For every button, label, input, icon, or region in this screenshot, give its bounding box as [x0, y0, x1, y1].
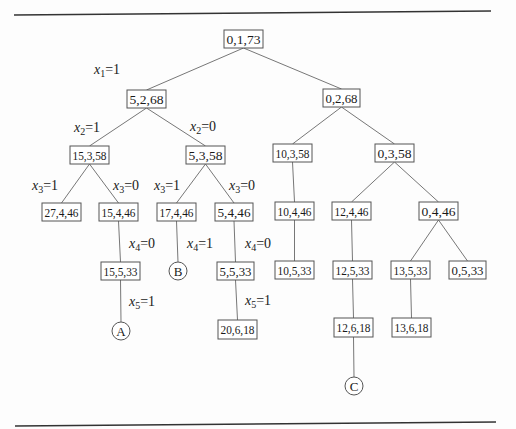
tree-node: 0,2,68	[323, 89, 360, 107]
edge-n19-n24	[411, 279, 412, 318]
svg-text:27,4,46: 27,4,46	[45, 205, 79, 220]
tree-node: 15,5,33	[101, 262, 140, 280]
svg-text:10,5,33: 10,5,33	[278, 263, 312, 278]
svg-text:10,4,46: 10,4,46	[278, 204, 312, 219]
svg-text:20,6,18: 20,6,18	[221, 322, 255, 337]
svg-text:5,2,68: 5,2,68	[130, 92, 164, 107]
tree-node: 15,3,58	[70, 146, 109, 164]
svg-text:15,3,58: 15,3,58	[73, 148, 107, 163]
svg-text:0,1,73: 0,1,73	[227, 32, 261, 47]
tree-node: 27,4,46	[42, 203, 81, 221]
edge-n10-n16	[234, 221, 236, 262]
tree-node: 5,2,68	[127, 90, 166, 108]
edge-label: x3=0	[228, 178, 255, 195]
tree-node: 12,6,18	[334, 318, 373, 337]
edge-n14-n21	[121, 280, 122, 322]
svg-text:B: B	[174, 264, 183, 279]
tree-node: 12,5,33	[333, 261, 372, 279]
tree-node: 17,4,46	[157, 203, 196, 221]
svg-text:13,5,33: 13,5,33	[394, 263, 428, 278]
svg-text:12,5,33: 12,5,33	[336, 263, 370, 278]
svg-text:13,6,18: 13,6,18	[395, 320, 429, 335]
tree-node: 0,4,46	[419, 202, 458, 220]
edge-n18-n23	[353, 279, 354, 318]
edge-label: x2=0	[189, 119, 216, 136]
edge-n13-n19	[411, 220, 439, 261]
bottom-rule	[15, 422, 496, 426]
tree-node: 10,5,33	[275, 261, 314, 279]
svg-text:5,4,46: 5,4,46	[218, 205, 252, 220]
tree-node: 15,4,46	[99, 203, 138, 221]
top-rule	[14, 11, 491, 15]
svg-text:0,3,58: 0,3,58	[378, 146, 412, 161]
edge-n6-n13	[395, 162, 439, 202]
edge-label: x4=0	[244, 236, 271, 253]
edge-n12-n18	[352, 220, 353, 261]
tree-node: 5,4,46	[215, 203, 253, 221]
tree-node: 13,5,33	[391, 261, 430, 279]
leaf-marker-B: B	[169, 262, 187, 280]
edge-n9-n15	[177, 221, 179, 262]
edge-n4-n9	[177, 164, 206, 203]
edge-n23-n25	[354, 337, 355, 377]
tree-nodes: 0,1,735,2,680,2,6815,3,585,3,5810,3,580,…	[42, 30, 486, 395]
edge-n2-n6	[342, 107, 395, 144]
svg-text:A: A	[116, 324, 126, 339]
edge-label: x5=1	[244, 293, 271, 310]
svg-text:12,4,46: 12,4,46	[335, 204, 369, 219]
svg-text:17,4,46: 17,4,46	[160, 205, 194, 220]
tree-node: 5,3,58	[186, 146, 225, 164]
edge-label: x2=1	[73, 120, 100, 137]
tree-node: 5,5,33	[217, 262, 254, 280]
tree-node: 13,6,18	[392, 318, 431, 337]
edge-n8-n14	[119, 221, 121, 262]
edge-n3-n7	[62, 164, 90, 203]
svg-text:12,6,18: 12,6,18	[337, 320, 371, 335]
edge-n0-n1	[147, 48, 244, 90]
tree-node: 10,3,58	[273, 144, 312, 162]
tree-node: 12,4,46	[332, 202, 371, 220]
edge-n6-n12	[352, 162, 395, 202]
svg-text:5,5,33: 5,5,33	[220, 264, 252, 279]
tree-node: 0,5,33	[449, 261, 486, 279]
svg-text:10,3,58: 10,3,58	[276, 146, 310, 161]
tree-diagram: x1=1x2=1x2=0x3=1x3=0x3=1x3=0x4=0x4=1x4=0…	[0, 0, 516, 429]
edge-label: x3=0	[112, 178, 139, 195]
svg-text:5,3,58: 5,3,58	[189, 148, 223, 163]
edge-label: x1=1	[93, 62, 120, 79]
edge-label: x3=1	[153, 178, 180, 195]
svg-text:0,4,46: 0,4,46	[422, 204, 457, 219]
edge-n16-n22	[236, 280, 238, 320]
svg-text:0,2,68: 0,2,68	[326, 91, 358, 106]
tree-node: 0,1,73	[224, 30, 263, 48]
svg-text:0,5,33: 0,5,33	[452, 263, 484, 278]
edge-label: x4=0	[128, 236, 155, 253]
edge-label: x3=1	[31, 178, 58, 195]
tree-node: 10,4,46	[275, 202, 314, 220]
svg-text:C: C	[350, 379, 359, 394]
edge-label: x5=1	[128, 294, 155, 311]
svg-text:15,4,46: 15,4,46	[102, 205, 136, 220]
edge-n5-n11	[293, 162, 295, 202]
tree-svg: x1=1x2=1x2=0x3=1x3=0x3=1x3=0x4=0x4=1x4=0…	[0, 0, 516, 429]
leaf-marker-C: C	[345, 377, 363, 395]
tree-node: 0,3,58	[375, 144, 414, 162]
edge-n0-n2	[244, 48, 342, 89]
leaf-marker-A: A	[112, 322, 130, 340]
tree-node: 20,6,18	[218, 320, 257, 339]
edge-n13-n20	[439, 220, 468, 261]
svg-text:15,5,33: 15,5,33	[104, 264, 138, 279]
edge-n2-n5	[293, 107, 342, 144]
edge-label: x4=1	[186, 236, 213, 253]
